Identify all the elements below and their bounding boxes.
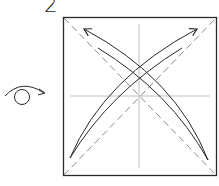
origami-step-diagram [0,0,219,186]
paper-square [64,18,217,176]
turn-over-icon [5,86,45,104]
